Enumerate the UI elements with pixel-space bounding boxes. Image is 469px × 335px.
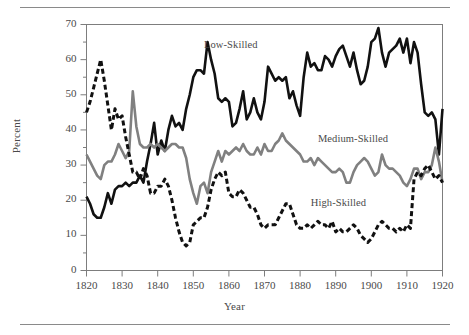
x-axis-tick-label: 1840 — [138, 279, 178, 291]
y-axis-tick-label: 10 — [51, 227, 77, 239]
y-axis-tick-label: 70 — [51, 17, 77, 29]
x-axis-tick-label: 1890 — [316, 279, 356, 291]
series-annotation-high-skilled: High-Skilled — [311, 197, 366, 208]
x-axis-tick-label: 1920 — [423, 279, 463, 291]
x-axis-tick-label: 1830 — [102, 279, 142, 291]
series-line-high-skilled — [87, 60, 443, 246]
y-axis-tick-label: 20 — [51, 192, 77, 204]
x-axis-tick-label: 1910 — [387, 279, 427, 291]
x-axis-tick-label: 1870 — [245, 279, 285, 291]
y-axis-tick-label: 0 — [51, 263, 77, 275]
x-axis-tick-label: 1850 — [173, 279, 213, 291]
y-axis-title: Percent — [10, 96, 22, 176]
x-axis-title: Year — [0, 300, 469, 312]
series-annotation-low-skilled: Low-Skilled — [204, 39, 258, 50]
x-axis-tick-label: 1860 — [209, 279, 249, 291]
y-axis-tick-label: 60 — [51, 52, 77, 64]
y-axis-tick-label: 30 — [51, 157, 77, 169]
figure-container: Percent Year 010203040506070182018301840… — [0, 0, 469, 335]
x-axis-tick-label: 1900 — [351, 279, 391, 291]
series-annotation-medium-skilled: Medium-Skilled — [318, 133, 388, 144]
y-axis-tick-label: 40 — [51, 122, 77, 134]
x-axis-tick-label: 1880 — [280, 279, 320, 291]
y-axis-tick-label: 50 — [51, 87, 77, 99]
series-line-low-skilled — [87, 28, 443, 218]
x-axis-tick-label: 1820 — [67, 279, 107, 291]
